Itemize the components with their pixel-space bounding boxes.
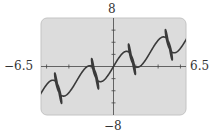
x-axis-max-label: 6.5: [190, 60, 209, 72]
y-axis-max-label: 8: [108, 3, 116, 15]
y-axis-min-label: −8: [104, 120, 122, 132]
x-axis-min-label: −6.5: [4, 60, 33, 72]
